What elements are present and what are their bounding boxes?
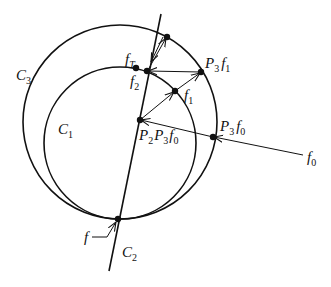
point-f <box>115 216 121 222</box>
label-f: f <box>84 229 90 245</box>
ray-f0-to-p3f0 <box>214 137 303 155</box>
diagram-canvas: C3 C1 C2 f fT f2 f1 P3f1 P3f0 P2P3f0 f0 <box>0 0 331 287</box>
point-p2p3f0 <box>137 117 143 123</box>
pointer-f <box>92 222 116 237</box>
point-top <box>164 34 170 40</box>
label-f2: f2 <box>130 73 139 92</box>
label-p3f1: P3f1 <box>204 55 230 74</box>
label-f0: f0 <box>307 149 316 168</box>
ray-f2-to-top <box>148 38 166 70</box>
label-p3f0: P3f0 <box>219 118 245 137</box>
ray-top-to-ft <box>151 37 163 62</box>
label-c3: C3 <box>16 67 31 86</box>
label-p2p3f0: P2P3f0 <box>138 127 179 146</box>
label-c1: C1 <box>58 121 73 140</box>
circle-c3 <box>23 25 217 219</box>
point-f1 <box>172 88 178 94</box>
point-p3f0 <box>210 134 216 140</box>
point-f2 <box>144 68 150 74</box>
point-p3f1 <box>198 69 204 75</box>
ray-p3f1-to-f2 <box>148 71 201 72</box>
label-c2: C2 <box>122 244 137 263</box>
